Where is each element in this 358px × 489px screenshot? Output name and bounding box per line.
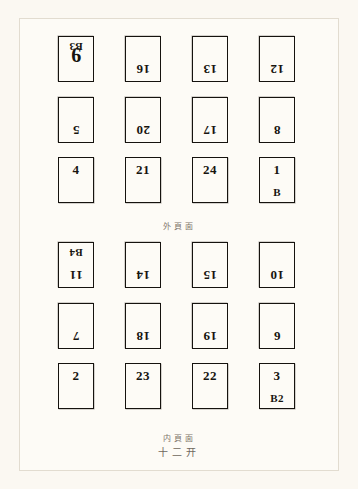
page-cell-inner: 3B2 [260,364,294,408]
page-cell: 4 [58,157,94,203]
page-grid-inner: 11B4141510718196223223B2 [48,236,310,408]
page-cell-inner: 8 [260,98,294,142]
page-cell: 16 [125,36,161,82]
page-cell-inner: 13 [193,37,227,81]
page-cell-inner: 14 [126,243,160,287]
format-label: 十二开 [0,444,358,459]
folio-number: 22 [193,369,227,382]
folio-number: 17 [193,124,227,137]
folio-number: 18 [126,330,160,343]
page-cell: 22 [192,363,228,409]
caption-inner-page-side: 内頁面 [0,432,358,443]
page-cell-inner: 9B3 [59,37,93,81]
page-cell: 19 [192,303,228,349]
folio-number: 23 [126,369,160,382]
page-cell-inner: 20 [126,98,160,142]
page-cell: 13 [192,36,228,82]
signature-mark: B4 [59,247,93,258]
section-outer-page-side: 9B3161312520178421241B 外頁面 [0,30,358,230]
page-cell: 11B4 [58,242,94,288]
page-cell: 5 [58,97,94,143]
folio-number: 8 [260,124,294,137]
page-cell-inner: 24 [193,158,227,202]
page-cell: 17 [192,97,228,143]
page-cell: 20 [125,97,161,143]
page-cell: 3B2 [259,363,295,409]
page-cell-inner: 6 [260,304,294,348]
page-cell: 1B [259,157,295,203]
section-inner-page-side: 11B4141510718196223223B2 内頁面 [0,236,358,446]
signature-mark: B3 [59,41,93,52]
folio-number: 4 [59,163,93,176]
page-cell-inner: 5 [59,98,93,142]
page-cell: 9B3 [58,36,94,82]
imposition-sheet: 9B3161312520178421241B 外頁面 11B4141510718… [0,0,358,489]
folio-number: 7 [59,330,93,343]
caption-outer-page-side: 外頁面 [0,220,358,231]
folio-number: 21 [126,163,160,176]
page-cell: 7 [58,303,94,349]
folio-number: 1 [260,163,294,176]
page-cell-inner: 21 [126,158,160,202]
page-cell-inner: 23 [126,364,160,408]
folio-number: 6 [260,330,294,343]
page-cell-inner: 22 [193,364,227,408]
folio-number: 5 [59,124,93,137]
signature-mark: B2 [260,393,294,404]
page-cell: 23 [125,363,161,409]
page-cell: 10 [259,242,295,288]
page-cell-inner: 17 [193,98,227,142]
folio-number: 10 [260,269,294,282]
page-cell-inner: 7 [59,304,93,348]
page-cell-inner: 18 [126,304,160,348]
page-cell: 15 [192,242,228,288]
folio-number: 19 [193,330,227,343]
page-cell: 21 [125,157,161,203]
folio-number: 14 [126,269,160,282]
folio-number: 13 [193,63,227,76]
page-cell: 24 [192,157,228,203]
page-cell-inner: 1B [260,158,294,202]
folio-number: 12 [260,63,294,76]
signature-mark: B [260,187,294,198]
folio-number: 2 [59,369,93,382]
page-cell: 8 [259,97,295,143]
page-cell-inner: 11B4 [59,243,93,287]
page-cell-inner: 10 [260,243,294,287]
folio-number: 20 [126,124,160,137]
page-cell-inner: 2 [59,364,93,408]
page-cell: 2 [58,363,94,409]
page-cell-inner: 4 [59,158,93,202]
page-grid-outer: 9B3161312520178421241B [48,30,310,202]
folio-number: 24 [193,163,227,176]
page-cell: 14 [125,242,161,288]
page-cell: 18 [125,303,161,349]
page-cell: 6 [259,303,295,349]
page-cell-inner: 12 [260,37,294,81]
page-cell-inner: 15 [193,243,227,287]
page-cell-inner: 19 [193,304,227,348]
page-cell-inner: 16 [126,37,160,81]
folio-number: 15 [193,269,227,282]
folio-number: 16 [126,63,160,76]
folio-number: 3 [260,369,294,382]
folio-number: 11 [59,269,93,282]
page-cell: 12 [259,36,295,82]
